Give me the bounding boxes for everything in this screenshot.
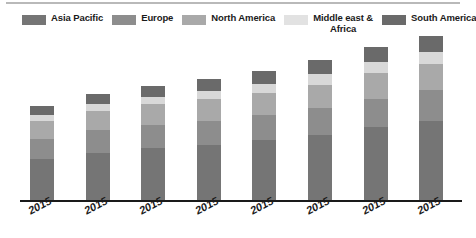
bar-segment xyxy=(86,111,110,131)
bar-segment xyxy=(308,60,332,74)
bar-segment xyxy=(86,94,110,104)
bar-segment xyxy=(197,91,221,99)
bar-segment xyxy=(141,148,165,201)
bar-segment xyxy=(30,139,54,159)
bar-segment xyxy=(141,97,165,104)
bar-segment xyxy=(252,140,276,201)
bar-segment xyxy=(197,99,221,120)
bar-segment xyxy=(141,104,165,124)
bar-segment xyxy=(141,125,165,148)
bar-segment xyxy=(364,73,388,98)
bar-segment xyxy=(308,135,332,201)
bar-segment xyxy=(364,47,388,62)
bar-segment xyxy=(419,36,443,52)
bar-segment xyxy=(364,127,388,201)
bar-segment xyxy=(364,62,388,73)
bar-segment xyxy=(197,79,221,91)
bar-segment xyxy=(86,153,110,201)
bar-segment xyxy=(252,115,276,140)
bar-segment xyxy=(30,106,54,115)
bar-segment xyxy=(364,99,388,128)
bar-segment xyxy=(308,85,332,108)
bar-segment xyxy=(141,86,165,97)
bar-segment xyxy=(30,121,54,139)
bar-segment xyxy=(86,130,110,152)
bar-segment xyxy=(419,90,443,121)
bar-2[interactable] xyxy=(86,94,110,201)
bar-4[interactable] xyxy=(197,79,221,201)
bar-segment xyxy=(252,71,276,84)
bar-8[interactable] xyxy=(419,36,443,201)
bar-6[interactable] xyxy=(308,60,332,201)
bar-segment xyxy=(30,159,54,201)
bar-segment xyxy=(419,64,443,90)
bar-segment xyxy=(308,108,332,135)
x-axis-line xyxy=(20,200,462,202)
bar-segment xyxy=(197,145,221,201)
bar-segment xyxy=(419,121,443,201)
bar-segment xyxy=(252,84,276,93)
bar-segment xyxy=(308,74,332,84)
bar-segment xyxy=(252,93,276,115)
bar-7[interactable] xyxy=(364,47,388,201)
bar-segment xyxy=(197,121,221,145)
bar-3[interactable] xyxy=(141,86,165,201)
bar-1[interactable] xyxy=(30,106,54,201)
bar-segment xyxy=(419,52,443,64)
bar-5[interactable] xyxy=(252,71,276,201)
